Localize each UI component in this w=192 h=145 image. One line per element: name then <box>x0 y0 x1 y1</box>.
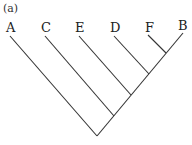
cladogram: (a) A C E D F B <box>0 0 192 145</box>
taxon-label-c: C <box>41 20 51 35</box>
branch-d <box>114 36 149 74</box>
branch-e <box>79 36 131 95</box>
taxon-label-e: E <box>75 20 85 35</box>
branch-c <box>45 36 114 116</box>
taxon-label-a: A <box>5 20 16 35</box>
taxon-label-d: D <box>110 20 120 35</box>
branch-b-spine <box>97 33 183 136</box>
branch-f <box>148 35 166 53</box>
taxon-label-b: B <box>178 18 188 33</box>
panel-label: (a) <box>3 2 18 15</box>
taxon-label-f: F <box>145 20 154 35</box>
branch-a <box>10 36 97 136</box>
